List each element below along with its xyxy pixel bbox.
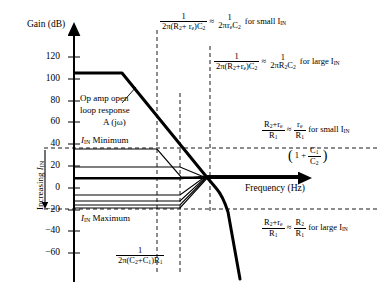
approx-sign-top: ≈ [210,16,215,26]
equation-ratio-small-iin: R2+re R1 ≈ re R1 for small IIN [262,120,349,141]
approx-sign-ratio-small: ≈ [287,124,292,134]
opamp-label-line2: loop response [80,106,130,115]
paren-close: ) [323,148,328,163]
frac-top-left-num: 1 [160,12,207,21]
increasing-iin-sub: IN [39,161,45,167]
iin-minimum-label: IIN Minimum [81,136,129,146]
frac-second-left-num: 1 [214,52,259,61]
equation-top-small-iin: 1 2π(R2+ re)C2 ≈ 1 2πreC2 for small IIN [160,12,286,31]
paren-open: ( [288,148,293,163]
equation-ratio-large-iin: R2+re R1 ≈ R2 R1 for large IIN [262,218,348,239]
increasing-iin-label: Increasing IIN [36,161,46,210]
frac-bottom-den: 2π(C2+C1)R1 [116,255,164,266]
frac-ratio-small-left: R2+re R1 [262,120,285,141]
frac-ratio-small-right-den: R1 [294,130,306,141]
opamp-label-line1: Op amp open [80,94,129,103]
approx-sign-second: ≈ [261,56,266,66]
y-tick-label: 60 [34,117,60,127]
frac-ratio-small-right-num: re [294,120,306,130]
frac-gain-boost-den: C2 [308,156,320,167]
gain-boost-one: 1 + [295,150,306,160]
frac-top-right-den: 2πreC2 [216,21,242,31]
condition-second: for large IIN [300,56,340,66]
iin-max-rest: Maximum [90,213,130,223]
frac-bottom-num: 1 [116,246,164,255]
frac-ratio-large-left-num: R2+re [262,218,285,228]
condition-top: for small IIN [245,16,286,26]
approx-sign-ratio-large: ≈ [287,222,292,232]
frac-ratio-large-left-den: R1 [262,228,285,239]
frac-second-right: 1 2πR2C2 [268,53,298,71]
frac-bottom: 1 2π(C2+C1)R1 [116,246,164,265]
condition-ratio-large: for large IIN [308,222,348,232]
equation-bottom-c2c1r1: 1 2π(C2+C1)R1 [116,246,164,265]
frac-second-right-den: 2πR2C2 [268,61,298,71]
y-tick-label: −60 [32,248,60,258]
equation-gain-boost: ( 1 + C1 C2 ) [288,146,327,167]
frac-second-left-den: 2π(R2+re)C2 [214,61,259,72]
x-axis-title: Frequency (Hz) [245,184,305,194]
condition-ratio-small: for small IIN [308,124,349,134]
frac-top-left: 1 2π(R2+ re)C2 [160,12,207,31]
frac-second-left: 1 2π(R2+re)C2 [214,52,259,71]
increasing-iin-text: Increasing [35,170,45,210]
y-tick-label: −40 [32,226,60,236]
iin-maximum-label: IIN Maximum [81,214,130,224]
y-axis-title: Gain (dB) [27,20,65,30]
opamp-label-line3: A (jω) [103,118,126,127]
frac-ratio-large-left: R2+re R1 [262,218,285,239]
y-tick-label: 80 [34,96,60,106]
gain-vs-frequency-figure: Gain (dB) Frequency (Hz) 120 100 80 60 4… [0,0,392,288]
equation-second-large-iin: 1 2π(R2+re)C2 ≈ 1 2πR2C2 for large IIN [214,52,340,71]
frac-top-left-den: 2π(R2+ re)C2 [160,21,207,32]
frac-gain-boost-num: C1 [308,146,320,156]
frac-ratio-large-right-num: R2 [294,218,306,228]
frac-gain-boost: C1 C2 [308,146,320,167]
iin-min-rest: Minimum [90,135,128,145]
frac-ratio-large-right: R2 R1 [294,218,306,239]
y-tick-label: 120 [34,52,60,62]
y-tick-label: 40 [34,139,60,149]
increasing-iin-var: I [35,167,45,170]
frac-ratio-small-left-num: R2+re [262,120,285,130]
frac-ratio-large-right-den: R1 [294,228,306,239]
frac-ratio-small-left-den: R1 [262,130,285,141]
y-tick-label: 100 [34,74,60,84]
frac-top-right: 1 2πreC2 [216,13,242,31]
frac-ratio-small-right: re R1 [294,120,306,141]
